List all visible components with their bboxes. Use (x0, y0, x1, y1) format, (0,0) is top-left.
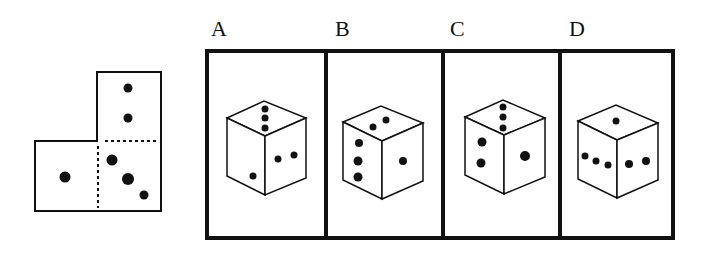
cube-option-a[interactable] (227, 101, 306, 195)
cube-option-b[interactable] (343, 106, 423, 199)
cube-option-c[interactable] (465, 100, 545, 194)
puzzle-figure (0, 0, 706, 255)
cube-net (35, 72, 161, 211)
cube-option-d[interactable] (578, 105, 658, 198)
